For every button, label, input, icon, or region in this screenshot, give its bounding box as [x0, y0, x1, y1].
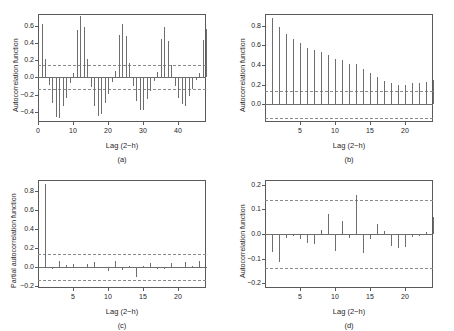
y-tick-mark [35, 26, 38, 27]
acf-bar [164, 267, 165, 269]
acf-bar [293, 39, 294, 105]
acf-bar [122, 24, 123, 77]
acf-bar [45, 59, 46, 77]
acf-bar [105, 77, 106, 103]
y-tick-mark [35, 191, 38, 192]
acf-bar [412, 83, 413, 105]
y-tick-label: 0.4 [237, 61, 261, 68]
y-tick-label: −0.2 [237, 279, 261, 286]
acf-bar [136, 77, 137, 101]
confidence-bound-lower [265, 118, 433, 119]
x-tick-mark [370, 122, 371, 125]
acf-bar [356, 64, 357, 104]
acf-bar [272, 234, 273, 252]
confidence-bound-upper [38, 254, 206, 255]
acf-bar [171, 263, 172, 267]
x-tick-label: 20 [98, 127, 118, 134]
x-tick-mark [300, 288, 301, 291]
acf-bar [335, 59, 336, 104]
panel-d-caption: (d) [265, 321, 433, 330]
acf-bar [419, 83, 420, 105]
y-tick-mark [262, 283, 265, 284]
x-tick-mark [178, 122, 179, 125]
acf-bar [272, 18, 273, 104]
x-tick-mark [335, 288, 336, 291]
acf-bar [182, 77, 183, 104]
y-tick-mark [35, 77, 38, 78]
y-tick-label: −0.1 [237, 255, 261, 262]
x-tick-mark [108, 288, 109, 291]
acf-bar [178, 77, 179, 98]
acf-bar [300, 234, 301, 239]
x-tick-label: 20 [168, 293, 188, 300]
acf-bar [192, 77, 193, 89]
acf-bar [279, 234, 280, 262]
x-tick-mark [405, 288, 406, 291]
acf-bar [87, 264, 88, 267]
x-tick-mark [178, 288, 179, 291]
x-tick-label: 15 [360, 127, 380, 134]
acf-bar [94, 262, 95, 267]
x-tick-mark [143, 122, 144, 125]
acf-bar [150, 77, 151, 91]
acf-bar [405, 234, 406, 247]
acf-bar [49, 77, 50, 85]
acf-bar [175, 77, 176, 86]
x-tick-label: 20 [395, 293, 415, 300]
y-tick-mark [262, 26, 265, 27]
y-tick-label: 0.8 [10, 187, 34, 194]
acf-bar [342, 221, 343, 234]
y-tick-label: 0.2 [10, 244, 34, 251]
x-tick-label: 40 [168, 127, 188, 134]
y-tick-mark [262, 185, 265, 186]
acf-bar [52, 77, 53, 103]
acf-bar [307, 48, 308, 104]
x-tick-label: 30 [133, 127, 153, 134]
acf-bar [91, 77, 92, 86]
y-tick-mark [35, 95, 38, 96]
y-tick-mark [35, 112, 38, 113]
acf-bar [108, 77, 109, 93]
y-tick-mark [262, 209, 265, 210]
acf-bar [391, 234, 392, 246]
acf-bar [199, 261, 200, 267]
acf-bar [101, 267, 102, 268]
panel-a-caption: (a) [38, 155, 206, 164]
y-tick-mark [262, 85, 265, 86]
acf-bar [157, 72, 158, 77]
x-tick-mark [143, 288, 144, 291]
y-tick-mark [35, 267, 38, 268]
acf-bar [196, 77, 197, 80]
x-tick-label: 5 [290, 293, 310, 300]
panel-b-axes [265, 14, 433, 122]
x-tick-label: 10 [98, 293, 118, 300]
acf-bar [377, 224, 378, 234]
acf-bar [293, 234, 294, 236]
confidence-bound-upper [265, 200, 433, 201]
y-tick-label: −0.2 [10, 91, 34, 98]
acf-bar [391, 83, 392, 105]
acf-bar [370, 234, 371, 239]
acf-bar [321, 230, 322, 234]
acf-bar [279, 27, 280, 105]
acf-bar [398, 234, 399, 248]
y-tick-label: 0.6 [237, 41, 261, 48]
acf-bar [63, 77, 64, 105]
acf-bar [342, 60, 343, 104]
acf-bar [426, 232, 427, 234]
acf-bar [377, 77, 378, 104]
acf-bar [433, 80, 434, 105]
y-tick-mark [35, 286, 38, 287]
acf-bar [56, 77, 57, 116]
acf-bar [164, 27, 165, 78]
panel-b-caption: (b) [265, 155, 433, 164]
y-tick-label: 0.8 [237, 22, 261, 29]
panel-c-xlabel: Lag (2−h) [38, 307, 206, 316]
y-tick-label: 0.0 [10, 73, 34, 80]
x-tick-mark [108, 122, 109, 125]
y-tick-mark [35, 229, 38, 230]
y-tick-label: 0.6 [10, 22, 34, 29]
panel-c-axes [38, 180, 206, 288]
x-tick-label: 0 [28, 127, 48, 134]
acf-bar [126, 36, 127, 77]
